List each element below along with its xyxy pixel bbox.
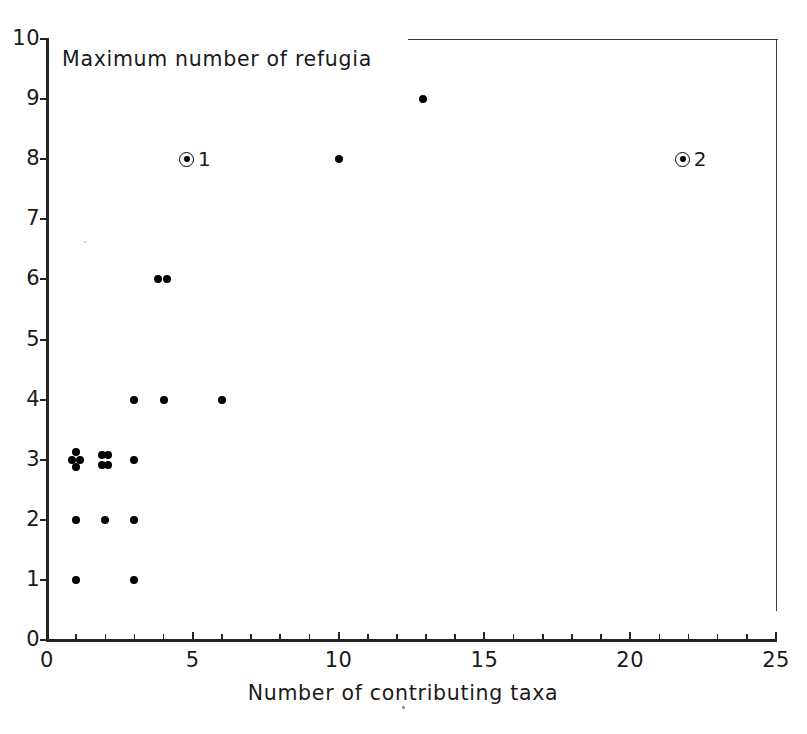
x-axis-title: Number of contributing taxa [248, 681, 559, 705]
x-minor-tick-24 [746, 634, 748, 640]
data-point [160, 396, 168, 404]
plot-frame-right [776, 39, 777, 611]
x-tick-label-10: 10 [325, 650, 353, 671]
marker-label-2: 2 [694, 147, 707, 171]
x-tick-label-0: 0 [40, 650, 54, 671]
plot-frame-top [408, 39, 778, 40]
y-tick-label-10: 10 [12, 28, 40, 49]
x-minor-tick-7 [250, 634, 252, 640]
marker-label-1: 1 [198, 147, 211, 171]
y-tick-label-5: 5 [26, 329, 40, 350]
x-minor-tick-23 [717, 634, 719, 640]
circled-dot-marker-2 [675, 152, 690, 167]
x-minor-tick-6 [221, 634, 223, 640]
x-minor-tick-16 [513, 634, 515, 640]
x-minor-tick-22 [688, 634, 690, 640]
plot-title: Maximum number of refugia [62, 47, 372, 71]
data-point [104, 451, 112, 459]
scatter-plot-figure: Maximum number of refugia Number of cont… [0, 0, 807, 734]
y-tick-6 [40, 278, 49, 280]
x-minor-tick-11 [367, 634, 369, 640]
x-minor-tick-18 [571, 634, 573, 640]
y-tick-5 [40, 339, 49, 341]
x-tick-label-5: 5 [186, 650, 200, 671]
x-minor-tick-19 [600, 634, 602, 640]
x-minor-tick-12 [396, 634, 398, 640]
y-tick-label-3: 3 [26, 449, 40, 470]
y-tick-label-4: 4 [26, 389, 40, 410]
x-minor-tick-13 [425, 634, 427, 640]
x-tick-0 [46, 632, 48, 641]
x-minor-tick-1 [75, 634, 77, 640]
data-point [72, 576, 80, 584]
data-point [335, 155, 343, 163]
y-tick-9 [40, 98, 49, 100]
y-tick-7 [40, 218, 49, 220]
x-tick-10 [338, 632, 340, 641]
data-point [130, 456, 138, 464]
data-point [218, 396, 226, 404]
x-tick-15 [483, 632, 485, 641]
y-tick-3 [40, 459, 49, 461]
data-point [104, 461, 112, 469]
y-tick-label-1: 1 [26, 569, 40, 590]
x-tick-label-25: 25 [762, 650, 790, 671]
x-minor-tick-4 [163, 634, 165, 640]
x-tick-5 [192, 632, 194, 641]
print-speck [84, 241, 86, 243]
y-tick-label-0: 0 [26, 629, 40, 650]
x-minor-tick-17 [542, 634, 544, 640]
circled-dot-marker-1 [179, 152, 194, 167]
data-point [130, 576, 138, 584]
y-tick-4 [40, 399, 49, 401]
data-point [130, 516, 138, 524]
data-point [154, 275, 162, 283]
x-tick-label-15: 15 [471, 650, 499, 671]
x-tick-20 [629, 632, 631, 641]
y-tick-2 [40, 519, 49, 521]
x-minor-tick-9 [309, 634, 311, 640]
y-tick-1 [40, 579, 49, 581]
y-tick-label-2: 2 [26, 509, 40, 530]
x-minor-tick-2 [105, 634, 107, 640]
y-tick-8 [40, 158, 49, 160]
y-tick-label-7: 7 [26, 208, 40, 229]
x-minor-tick-3 [134, 634, 136, 640]
data-point [163, 275, 171, 283]
data-point [419, 95, 427, 103]
y-tick-10 [40, 38, 49, 40]
x-tick-label-20: 20 [616, 650, 644, 671]
y-tick-label-8: 8 [26, 148, 40, 169]
data-point [72, 516, 80, 524]
data-point [101, 516, 109, 524]
x-minor-tick-8 [279, 634, 281, 640]
y-tick-label-9: 9 [26, 88, 40, 109]
data-point [72, 463, 80, 471]
x-minor-tick-14 [454, 634, 456, 640]
y-tick-label-6: 6 [26, 268, 40, 289]
data-point [130, 396, 138, 404]
x-minor-tick-21 [659, 634, 661, 640]
x-axis-line [46, 639, 777, 642]
x-tick-25 [775, 632, 777, 641]
print-speck [402, 706, 405, 709]
